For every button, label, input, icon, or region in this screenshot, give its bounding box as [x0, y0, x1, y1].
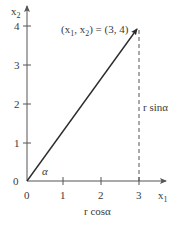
y-tick-label-2: 2 [14, 98, 20, 110]
y-tick-label-3: 3 [14, 59, 20, 71]
vector-arrow [27, 29, 137, 181]
y-axis-label: x2 [11, 5, 21, 20]
x-tick-label-0: 0 [24, 189, 30, 201]
point-label: (x1, x2) = (3, 4) [61, 23, 129, 38]
x-axis-label: x1 [158, 189, 168, 204]
x-tick-label-3: 3 [136, 189, 142, 201]
x-tick-label-1: 1 [60, 189, 66, 201]
y-tick-label-1: 1 [14, 137, 20, 149]
vector-diagram: 4 3 2 1 0 0 1 2 3 x2 x1 (x1, x2) = (3, 4… [0, 0, 177, 227]
angle-alpha-label: α [42, 165, 48, 177]
r-sin-label: r sinα [143, 101, 168, 113]
y-tick-label-4: 4 [14, 20, 20, 32]
x-tick-label-2: 2 [98, 189, 104, 201]
y-tick-label-0: 0 [13, 175, 19, 187]
r-cos-label: r cosα [84, 205, 111, 217]
